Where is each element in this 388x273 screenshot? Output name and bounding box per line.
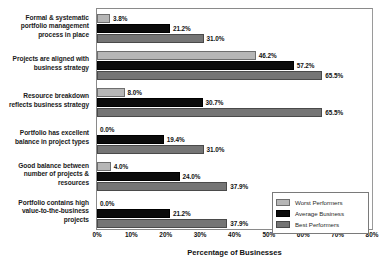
bar-value-label: 46.2% — [259, 51, 277, 60]
bar-value-label: 21.2% — [173, 209, 191, 218]
bar-value-label: 8.0% — [128, 88, 142, 97]
bar — [97, 24, 170, 33]
category-label: Portfolio contains high value-to-the-bus… — [0, 193, 89, 230]
bar-value-label: 3.8% — [113, 14, 127, 23]
category-label: Portfolio has excellent balance in proje… — [0, 119, 89, 156]
x-tick-label: 20% — [159, 231, 172, 238]
legend-swatch — [276, 199, 290, 206]
bar-group: 4.0%24.0%37.9% — [97, 157, 372, 194]
category-label: Resource breakdown reflects business str… — [0, 82, 89, 119]
x-axis-title: Percentage of Businesses — [96, 248, 373, 257]
bar — [97, 71, 322, 80]
bar — [97, 51, 256, 60]
bar-group: 3.8%21.2%31.0% — [97, 9, 372, 46]
bar-value-label: 37.9% — [230, 182, 248, 191]
legend-swatch — [276, 221, 290, 228]
bar-value-label: 65.5% — [325, 108, 343, 117]
bar — [97, 61, 294, 70]
bar-value-label: 4.0% — [114, 162, 128, 171]
bar — [97, 182, 227, 191]
bar — [97, 98, 203, 107]
bar-group: 46.2%57.2%65.5% — [97, 46, 372, 83]
bar-value-label: 24.0% — [183, 172, 201, 181]
bar-value-label: 31.0% — [207, 34, 225, 43]
bar — [97, 14, 110, 23]
x-tick-label: 10% — [125, 231, 138, 238]
bar-group: 0.0%19.4%31.0% — [97, 120, 372, 157]
bar-value-label: 30.7% — [206, 98, 224, 107]
bar — [97, 209, 170, 218]
legend-swatch — [276, 210, 290, 217]
bar-value-label: 0.0% — [100, 199, 114, 208]
x-tick-label: 40% — [228, 231, 241, 238]
legend-item: Worst Performers — [276, 197, 364, 207]
bar — [97, 34, 204, 43]
bar — [97, 108, 322, 117]
legend-item: Best Performers — [276, 219, 364, 229]
category-axis-labels: Formal & systematic portfolio management… — [0, 8, 92, 230]
legend-label: Worst Performers — [295, 199, 343, 206]
bar-value-label: 19.4% — [167, 135, 185, 144]
bar-value-label: 65.5% — [325, 71, 343, 80]
bar-chart: Formal & systematic portfolio management… — [0, 0, 388, 273]
bar — [97, 219, 227, 228]
category-label: Formal & systematic portfolio management… — [0, 8, 89, 45]
legend-label: Average Business — [295, 210, 344, 217]
bar-value-label: 37.9% — [230, 219, 248, 228]
legend-label: Best Performers — [295, 221, 339, 228]
bar-value-label: 31.0% — [207, 145, 225, 154]
bar-group: 8.0%30.7%65.5% — [97, 83, 372, 120]
x-tick-label: 30% — [194, 231, 207, 238]
chart-legend: Worst PerformersAverage BusinessBest Per… — [272, 192, 369, 234]
bar-value-label: 0.0% — [100, 125, 114, 134]
bar-value-label: 57.2% — [297, 61, 315, 70]
bar-value-label: 21.2% — [173, 24, 191, 33]
bar — [97, 162, 111, 171]
x-tick-label: 0% — [92, 231, 101, 238]
category-label: Good balance between number of projects … — [0, 156, 89, 193]
bar — [97, 172, 180, 181]
bar — [97, 145, 204, 154]
category-label: Projects are aligned with business strat… — [0, 45, 89, 82]
bar — [97, 88, 125, 97]
legend-item: Average Business — [276, 208, 364, 218]
bar — [97, 135, 164, 144]
